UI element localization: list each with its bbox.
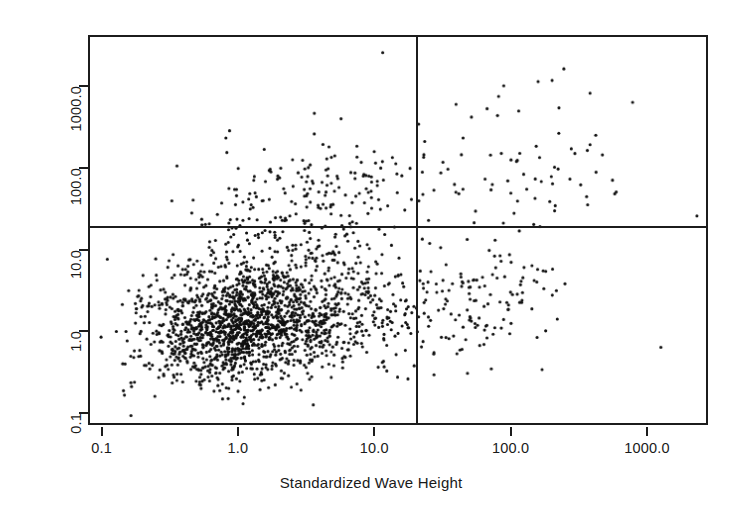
surge-threshold-line [90, 226, 706, 228]
scatter-plot-figure: 0.11.010.0100.01000.0 0.11.010.0100.0100… [0, 0, 742, 513]
y-axis: 0.11.010.0100.01000.0 [48, 35, 88, 425]
y-tick-label: 100.0 [68, 168, 84, 205]
x-tick-label: 0.1 [91, 440, 112, 456]
x-tick-label: 10.0 [360, 440, 389, 456]
x-tick-mark [510, 427, 512, 436]
x-tick-mark [646, 427, 648, 436]
y-tick-label: 0.1 [68, 413, 84, 434]
x-tick-mark [373, 427, 375, 436]
x-tick-label: 100.0 [492, 440, 529, 456]
x-axis: 0.11.010.0100.01000.0 [88, 427, 708, 467]
y-tick-label: 10.0 [68, 250, 84, 279]
x-tick-label: 1000.0 [624, 440, 670, 456]
x-tick-mark [101, 427, 103, 436]
wave-height-threshold-line [416, 37, 418, 423]
y-tick-label: 1.0 [68, 331, 84, 352]
x-axis-title: Standardized Wave Height [0, 474, 742, 491]
plot-area [88, 35, 708, 425]
y-tick-label: 1000.0 [68, 86, 84, 132]
scatter-points-layer [90, 37, 706, 423]
x-tick-mark [237, 427, 239, 436]
y-axis-title: Standardized Surge [0, 0, 30, 513]
x-tick-label: 1.0 [228, 440, 249, 456]
